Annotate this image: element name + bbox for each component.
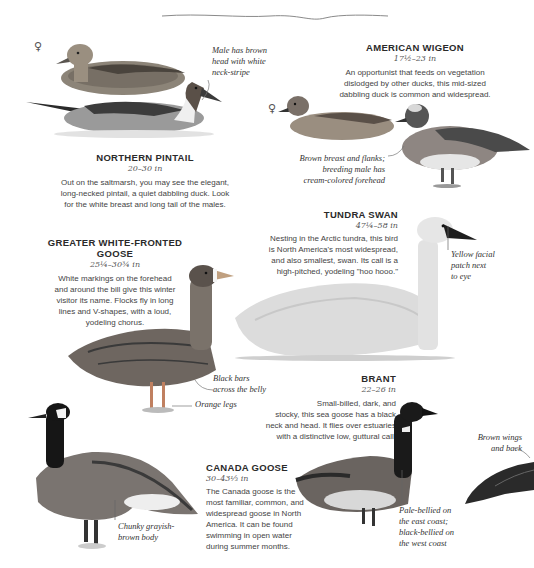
title-line: GREATER WHITE-FRONTED: [25, 237, 205, 248]
male-wigeon-illustration: [395, 100, 534, 195]
species-title: CANADA GOOSE: [206, 462, 326, 473]
annotation-chunky-body: Chunky grayish- brown body: [118, 521, 198, 543]
description-line: long-necked pintail, a quiet dabbling du…: [20, 188, 270, 199]
description-line: most familiar, common, and: [206, 497, 324, 508]
female-wigeon-illustration: [274, 92, 399, 144]
annotation-swan-face: Yellow facial patch next to eye: [451, 249, 521, 282]
annotation-line: neck-stripe: [212, 67, 302, 78]
species-size: 22–26 in: [290, 384, 396, 395]
annotation-brant-belly: Pale-bellied on the east coast; black-be…: [399, 505, 474, 549]
annotation-male-head: Male has brown head with white neck-stri…: [212, 45, 302, 78]
pointer-line: [401, 470, 405, 504]
annotation-line: Brown wings: [450, 432, 522, 443]
species-size: 17½–23 in: [310, 53, 520, 64]
annotation-line: and back: [450, 443, 522, 454]
annotation-line: Chunky grayish-: [118, 521, 198, 532]
annotation-line: the east coast;: [399, 516, 474, 527]
description-line: An opportunist that feeds on vegetation: [300, 67, 530, 78]
annotation-line: head with white: [212, 56, 302, 67]
annotation-line: Yellow facial: [451, 249, 521, 260]
annotation-line: breeding male has: [280, 164, 385, 175]
annotation-line: cream-colored forehead: [280, 175, 385, 186]
description-line: for the white breast and long tail of th…: [20, 199, 270, 210]
title-line: GOOSE: [25, 248, 205, 259]
description-line: Out on the saltmarsh, you may see the el…: [20, 177, 270, 188]
description-line: widespread goose in North: [206, 508, 324, 519]
species-description: Out on the saltmarsh, you may see the el…: [20, 177, 270, 210]
species-title: AMERICAN WIGEON: [310, 42, 520, 53]
annotation-line: brown body: [118, 532, 198, 543]
description-line: dislodged by other ducks, this mid-sized: [300, 78, 530, 89]
species-title: NORTHERN PINTAIL: [40, 152, 250, 163]
greater-white-fronted-goose-illustration: [68, 260, 238, 420]
description-line: during summer months.: [206, 541, 324, 552]
annotation-line: Brown breast and flanks;: [280, 153, 385, 164]
description-line: America. It can be found: [206, 519, 324, 530]
pointer-line: [514, 448, 532, 460]
annotation-line: Male has brown: [212, 45, 302, 56]
description-line: The Canada goose is the: [206, 486, 324, 497]
species-size: 30–43⅓ in: [206, 473, 326, 484]
species-title: BRANT: [290, 373, 396, 384]
brant-wing-partial-illustration: [465, 460, 534, 515]
annotation-line: to eye: [451, 271, 521, 282]
species-title: GREATER WHITE-FRONTED GOOSE: [25, 237, 205, 259]
description-line: swimming in open water: [206, 530, 324, 541]
annotation-line: Pale-bellied on: [399, 505, 474, 516]
species-description: The Canada goose is the most familiar, c…: [206, 486, 324, 552]
annotation-wigeon-breast: Brown breast and flanks; breeding male h…: [280, 153, 385, 186]
species-size: 20–30 in: [40, 163, 250, 174]
annotation-line: the west coast: [399, 538, 474, 549]
annotation-line: patch next: [451, 260, 521, 271]
annotation-line: black-bellied on: [399, 527, 474, 538]
pointer-line: [198, 80, 218, 110]
pointer-line: [388, 146, 408, 160]
divider-line: [160, 10, 390, 26]
annotation-brown-wings: Brown wings and back: [450, 432, 522, 454]
pointer-line: [114, 500, 118, 522]
